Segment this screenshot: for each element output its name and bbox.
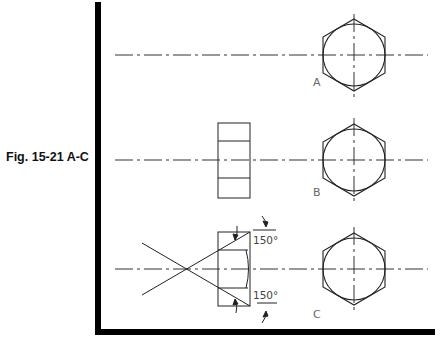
construction-line-down [142,243,250,306]
frame-left-bar [95,2,101,335]
view-label-c: C [313,308,321,321]
angle-label-bottom: 150° [253,289,278,301]
frame-bottom-bar [95,329,435,335]
view-label-b: B [313,186,321,199]
view-label-a: A [313,76,321,89]
construction-line-up [142,232,250,295]
technical-drawing: A B C 150° 150° [0,0,440,337]
angle-label-top: 150° [253,234,278,246]
